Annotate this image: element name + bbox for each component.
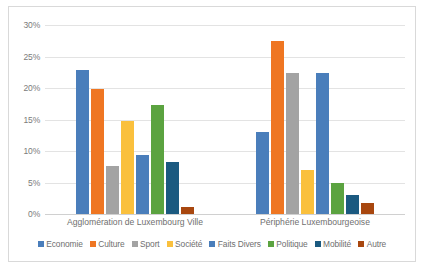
legend-swatch-icon [268, 241, 274, 247]
legend-label: Société [175, 239, 202, 249]
y-axis-tick-label: 0% [28, 209, 40, 219]
bar [271, 41, 284, 214]
bar [346, 195, 359, 214]
legend-swatch-icon [132, 241, 138, 247]
legend-item[interactable]: Politique [268, 239, 308, 249]
category-label: Agglomération de Luxembourg Ville [45, 217, 225, 227]
bar [91, 89, 104, 214]
bar [286, 73, 299, 214]
bar [106, 166, 119, 214]
legend-swatch-icon [315, 241, 321, 247]
legend-item[interactable]: Autre [358, 239, 386, 249]
bar-groups [45, 25, 405, 214]
legend-swatch-icon [358, 241, 364, 247]
bar [331, 183, 344, 215]
y-axis-tick-label: 15% [24, 115, 40, 125]
legend-swatch-icon [167, 241, 173, 247]
y-axis-tick-label: 10% [24, 146, 40, 156]
bar [136, 155, 149, 214]
legend-label: Mobilité [323, 239, 351, 249]
legend-item[interactable]: Economie [38, 239, 83, 249]
plot-area: 30%25%20%15%10%5%0% [45, 25, 405, 214]
legend-item[interactable]: Société [167, 239, 203, 249]
bar-group [225, 25, 405, 214]
y-axis-tick-label: 30% [24, 20, 40, 30]
legend-label: Autre [367, 239, 387, 249]
y-axis-tick-label: 20% [24, 83, 40, 93]
bar [301, 170, 314, 214]
bar-group [45, 25, 225, 214]
legend-item[interactable]: Mobilité [315, 239, 352, 249]
legend-label: Sport [140, 239, 160, 249]
chart-legend: EconomieCultureSportSociétéFaits DiversP… [9, 239, 415, 249]
bar [121, 121, 134, 214]
legend-label: Politique [276, 239, 307, 249]
legend-label: Culture [98, 239, 124, 249]
legend-label: Economie [46, 239, 82, 249]
y-axis-tick-label: 5% [28, 178, 40, 188]
legend-item[interactable]: Sport [132, 239, 160, 249]
bar [256, 132, 269, 214]
bar [316, 73, 329, 214]
chart-card: 30%25%20%15%10%5%0% Agglomération de Lux… [8, 6, 416, 262]
legend-label: Faits Divers [218, 239, 261, 249]
legend-swatch-icon [209, 241, 215, 247]
bar [361, 203, 374, 214]
legend-item[interactable]: Culture [90, 239, 125, 249]
axis-baseline: 0% [45, 214, 405, 215]
y-axis-tick-label: 25% [24, 52, 40, 62]
bar [181, 207, 194, 214]
bar [166, 162, 179, 214]
category-axis-labels: Agglomération de Luxembourg VillePériphé… [45, 217, 405, 227]
legend-swatch-icon [90, 241, 96, 247]
legend-swatch-icon [38, 241, 44, 247]
legend-item[interactable]: Faits Divers [209, 239, 261, 249]
category-label: Périphérie Luxembourgeoise [225, 217, 405, 227]
bar [76, 70, 89, 214]
bar [151, 105, 164, 214]
